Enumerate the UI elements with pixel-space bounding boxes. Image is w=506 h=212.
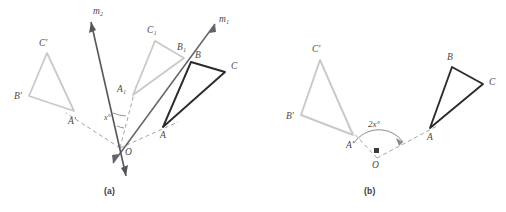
label-a-prime-b: A′ <box>345 140 355 150</box>
triangle-a-prime-b-prime-c-prime-b <box>301 60 353 135</box>
triangle-abc <box>163 62 225 127</box>
label-c1: C₁ <box>147 25 157 35</box>
label-b: B <box>195 50 201 60</box>
label-o: O <box>125 147 132 157</box>
label-b-prime: B′ <box>14 91 23 101</box>
geometry-figure: A′ B′ C′ A₁ B₁ C₁ A B C O x° m₁ m₂ A′ B′… <box>0 0 506 212</box>
label-a1: A₁ <box>116 84 126 94</box>
label-o-b: O <box>372 160 379 170</box>
label-m2: m₂ <box>93 6 104 16</box>
label-angle-x: x° <box>103 113 112 122</box>
label-b-prime-b: B′ <box>286 111 295 121</box>
label-b-b: B <box>447 52 453 62</box>
angle-tick-x <box>117 126 124 128</box>
caption-panel-b: (b) <box>364 186 375 196</box>
label-angle-2x: 2x° <box>368 119 380 129</box>
label-c-b: C <box>489 77 496 87</box>
label-c: C <box>231 61 238 71</box>
label-a: A <box>159 130 166 140</box>
figure-canvas: A′ B′ C′ A₁ B₁ C₁ A B C O x° m₁ m₂ A′ B′… <box>0 0 506 212</box>
line-m2 <box>89 22 128 176</box>
angle-arc-x <box>113 113 126 116</box>
triangle-a-prime-b-prime-c-prime <box>29 53 74 111</box>
dashed-ray-oa <box>120 122 178 148</box>
label-c-prime-b: C′ <box>312 44 321 54</box>
label-c-prime: C′ <box>39 38 48 48</box>
label-a-prime: A′ <box>67 116 77 126</box>
panel-a: A′ B′ C′ A₁ B₁ C₁ A B C O x° m₁ m₂ <box>14 6 238 176</box>
label-b1: B₁ <box>177 42 186 52</box>
label-a-b: A <box>426 132 433 142</box>
caption-panel-a: (a) <box>104 186 115 196</box>
center-point-dot <box>374 148 379 153</box>
triangle-abc-b <box>430 67 483 128</box>
panel-b: A′ B′ C′ A B C O 2x° <box>286 44 496 170</box>
label-m1: m₁ <box>219 14 229 24</box>
